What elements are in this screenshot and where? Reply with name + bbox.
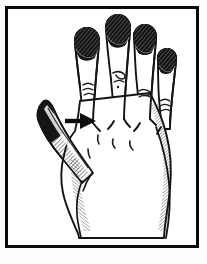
figure-caption [5,250,199,262]
figure-root [0,0,207,264]
hand-dorsal-view-illustration [8,9,196,245]
figure-frame-border [5,6,199,248]
index-fingernail [68,23,108,63]
